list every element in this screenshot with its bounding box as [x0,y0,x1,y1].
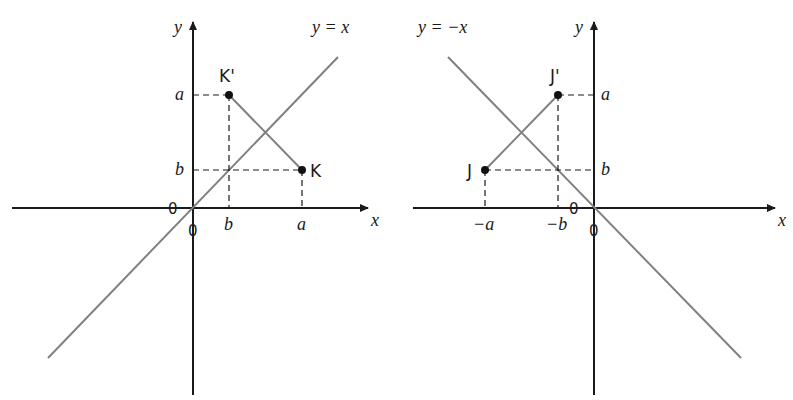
right-panel: y x y = −x J' J a b −a −b 0 0 [413,17,786,395]
left-panel: y x y = x K' K a b b a 0 0 [12,17,379,395]
y-tick-a: a [175,84,184,104]
origin-label-left: 0 [569,200,579,218]
y-axis-label: y [573,17,583,37]
origin-label-below: 0 [188,222,198,240]
point-k [298,166,306,174]
y-tick-b: b [175,159,184,179]
line-label: y = −x [416,17,467,37]
point-j [481,166,489,174]
point-k-label: K [310,161,322,181]
x-tick-a: a [297,214,306,234]
point-j-label: J [466,161,472,181]
x-axis-label: x [777,210,786,230]
y-tick-a: a [601,84,610,104]
x-tick-neg-a: −a [473,214,494,234]
point-j-prime-label: J' [549,66,560,86]
point-k-prime [225,91,233,99]
x-axis-label: x [370,210,379,230]
point-k-prime-label: K' [219,66,235,86]
x-tick-b: b [224,214,233,234]
origin-label-left: 0 [168,200,178,218]
line-label: y = x [310,17,349,37]
reflection-diagram: y x y = x K' K a b b a 0 0 y x y = −x J'… [0,0,793,400]
x-tick-neg-b: −b [546,214,567,234]
y-axis-label: y [172,17,182,37]
point-j-prime [554,91,562,99]
y-tick-b: b [601,159,610,179]
origin-label-below: 0 [589,222,599,240]
